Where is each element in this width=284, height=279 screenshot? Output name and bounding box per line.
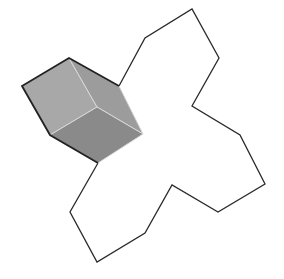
cube: [22, 58, 143, 163]
diagram-svg: [0, 0, 284, 279]
diagram-canvas: [0, 0, 284, 279]
